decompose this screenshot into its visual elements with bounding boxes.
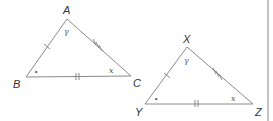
vertex-label-b: B (13, 78, 20, 90)
angle-x-gamma: γ (184, 56, 189, 65)
triangle-xyz-outline (145, 47, 253, 104)
congruent-triangles-diagram: A B C γ ∘ x X Y Z γ ∘ x (0, 0, 273, 121)
angle-a-gamma: γ (64, 27, 69, 36)
vertex-label-a: A (62, 4, 70, 16)
vertex-label-c: C (133, 77, 141, 89)
triangle-xyz: X Y Z γ ∘ x (135, 33, 263, 118)
angle-c-x: x (109, 66, 114, 75)
triangle-abc-outline (26, 19, 131, 77)
vertex-label-y: Y (135, 106, 143, 118)
side-ac-ticks (93, 39, 102, 51)
side-xz-ticks (213, 68, 222, 80)
triangle-abc: A B C γ ∘ x (13, 4, 141, 90)
angle-z-x: x (231, 94, 236, 103)
angle-b-circle: ∘ (34, 68, 38, 75)
angle-y-circle: ∘ (154, 95, 158, 102)
vertex-label-x: X (182, 33, 191, 45)
vertex-label-z: Z (254, 106, 263, 118)
